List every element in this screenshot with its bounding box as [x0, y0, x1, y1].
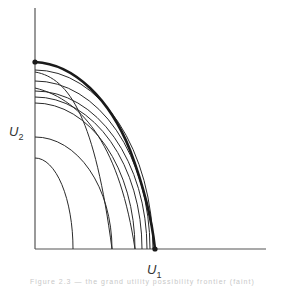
possibility-curve-1 [35, 158, 73, 249]
crossing-curve-b [35, 88, 135, 249]
possibility-curve-6 [35, 81, 150, 249]
possibility-curve-5 [35, 91, 147, 249]
frontier-u1-intercept-point [152, 246, 157, 251]
possibility-curve-7 [35, 70, 153, 249]
possibility-curve-2 [35, 137, 112, 249]
y-axis-label-base: U [9, 124, 18, 139]
y-axis-label-sub: 2 [18, 132, 23, 142]
utility-possibility-diagram [0, 0, 284, 289]
possibility-curve-4 [35, 97, 142, 249]
x-axis-label-base: U [147, 262, 156, 277]
y-axis-label: U2 [9, 124, 23, 142]
x-axis-label: U1 [147, 262, 161, 280]
frontier-u2-intercept-point [32, 59, 37, 64]
figure-caption: Figure 2.3 — the grand utility possibili… [30, 278, 255, 285]
